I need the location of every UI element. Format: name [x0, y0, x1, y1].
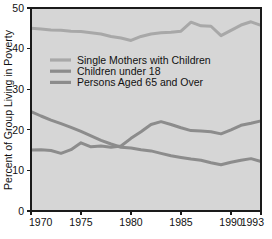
x-tick-label: 1985: [169, 216, 193, 228]
y-tick-label: 10: [12, 164, 24, 176]
x-tick-label: 1980: [119, 216, 143, 228]
legend-label-1: Children under 18: [77, 65, 161, 77]
x-tick-label: 1970: [29, 216, 53, 228]
y-tick-label: 0: [18, 205, 24, 217]
x-tick-label: 1993: [241, 216, 265, 228]
poverty-line-chart: 01020304050 197019751980198519901993 Per…: [0, 0, 272, 239]
y-tick-label: 20: [12, 124, 24, 136]
chart-canvas: 01020304050 197019751980198519901993 Per…: [0, 0, 272, 239]
legend-swatch-0: [50, 58, 71, 61]
plot-area-background: [31, 8, 261, 211]
y-tick-label: 50: [12, 2, 24, 14]
legend-swatch-2: [50, 81, 71, 84]
legend-label-2: Persons Aged 65 and Over: [77, 76, 204, 88]
legend-swatch-1: [50, 70, 71, 73]
legend-label-0: Single Mothers with Children: [77, 54, 211, 66]
x-tick-label: 1990: [219, 216, 243, 228]
y-axis-title: Percent of Group Living in Poverty: [2, 29, 14, 190]
y-tick-label: 40: [12, 42, 24, 54]
y-tick-label: 30: [12, 83, 24, 95]
x-tick-label: 1975: [69, 216, 93, 228]
